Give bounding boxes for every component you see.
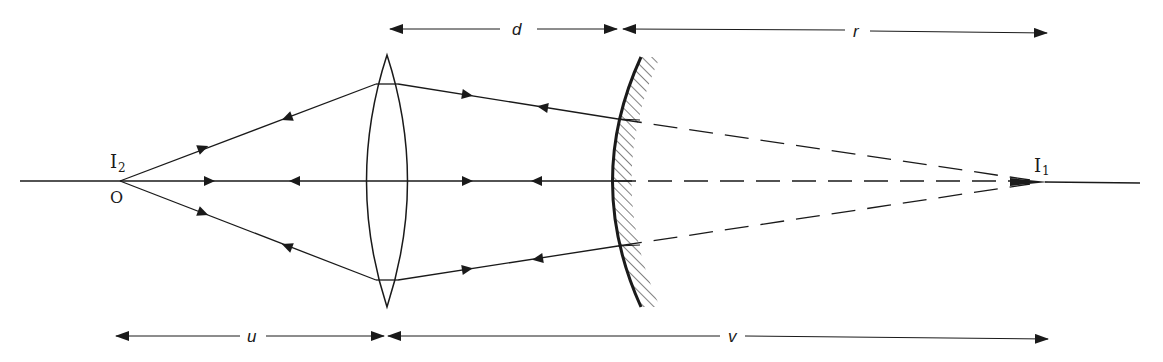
image2-label: I [110, 151, 117, 172]
image1-label: I [1034, 155, 1041, 176]
optics-diagram: d r u v [0, 0, 1163, 362]
rays-object-side [120, 84, 398, 280]
dimension-u: u [116, 327, 384, 346]
label-image2: I 2 [110, 151, 126, 175]
label-r: r [853, 22, 860, 41]
rays-lens-to-mirror [398, 84, 618, 280]
image2-subscript: 2 [118, 161, 126, 175]
concave-mirror [612, 57, 660, 307]
object-label: O [110, 188, 123, 207]
dimension-r: r [623, 22, 1047, 41]
label-d: d [512, 20, 522, 39]
image1-subscript: 1 [1042, 164, 1050, 178]
label-image1: I 1 [1034, 155, 1050, 178]
virtual-ray-extensions [618, 119, 1030, 246]
dimension-v: v [388, 327, 1048, 346]
principal-axis [20, 181, 1140, 183]
dimension-d: d [390, 20, 617, 39]
label-u: u [247, 327, 257, 346]
label-v: v [728, 327, 738, 346]
